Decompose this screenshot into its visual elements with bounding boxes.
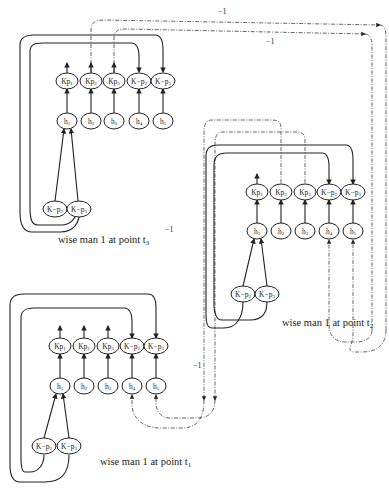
node-bottom-k-not-p2: K−p2 <box>43 201 67 217</box>
edge-label-minus-one: −1 <box>218 7 227 16</box>
node-h1: h1 <box>50 378 70 394</box>
node-kp2: Kp2 <box>73 338 95 354</box>
node-k-not-p2: K−p2 <box>120 338 144 354</box>
node-kp1: Kp1 <box>246 184 268 200</box>
node-h3: h3 <box>98 378 118 394</box>
node-kp3: Kp3 <box>103 73 125 89</box>
edge-label-minus-one: −1 <box>193 361 202 370</box>
node-kp1: Kp1 <box>49 338 71 354</box>
node-bottom-k-not-p2: K−p2 <box>32 438 56 454</box>
node-h1: h1 <box>57 113 77 129</box>
node-h2: h2 <box>81 113 101 129</box>
node-bottom-k-not-p3: K−p3 <box>67 201 91 217</box>
node-k-not-p3: K−p3 <box>341 184 365 200</box>
node-h5: h5 <box>153 113 173 129</box>
caption-t2: wise man 1 at point t2 <box>282 317 374 330</box>
caption-t3: wise man 1 at point t3 <box>58 234 150 247</box>
node-bottom-k-not-p3: K−p3 <box>57 438 81 454</box>
node-kp3: Kp3 <box>294 184 316 200</box>
node-kp2: Kp2 <box>80 73 102 89</box>
wise-men-diagram: Kp1 Kp2 Kp3 K−p2 K−p3 h1 h2 h3 h4 h5 K−p… <box>0 0 389 498</box>
node-kp3: Kp3 <box>97 338 119 354</box>
node-h5: h5 <box>343 223 363 239</box>
node-h2: h2 <box>74 378 94 394</box>
node-h4: h4 <box>122 378 142 394</box>
node-h3: h3 <box>295 223 315 239</box>
node-bottom-k-not-p3: K−p3 <box>255 286 279 302</box>
node-kp2: Kp2 <box>270 184 292 200</box>
edge-label-minus-one: −1 <box>165 225 174 234</box>
panel-t2: Kp1 Kp2 Kp3 K−p2 K−p3 h1 h2 h3 h4 h5 K−p… <box>204 25 386 400</box>
node-h1: h1 <box>247 223 267 239</box>
node-h5: h5 <box>146 378 166 394</box>
panel-t3: Kp1 Kp2 Kp3 K−p2 K−p3 h1 h2 h3 h4 h5 K−p… <box>20 20 380 247</box>
node-h3: h3 <box>104 113 124 129</box>
node-k-not-p2: K−p2 <box>317 184 341 200</box>
edge-label-minus-one: −1 <box>266 37 275 46</box>
node-k-not-p3: K−p3 <box>144 338 168 354</box>
panel-t1: Kp1 Kp2 Kp3 K−p2 K−p3 h1 h2 h3 h4 h5 K−p… <box>10 294 215 482</box>
node-h4: h4 <box>319 223 339 239</box>
node-h2: h2 <box>271 223 291 239</box>
node-k-not-p3: K−p3 <box>151 73 175 89</box>
node-k-not-p2: K−p2 <box>127 73 151 89</box>
node-bottom-k-not-p2: K−p2 <box>231 286 255 302</box>
node-h4: h4 <box>129 113 149 129</box>
caption-t1: wise man 1 at point t1 <box>100 456 192 469</box>
node-kp1: Kp1 <box>56 73 78 89</box>
